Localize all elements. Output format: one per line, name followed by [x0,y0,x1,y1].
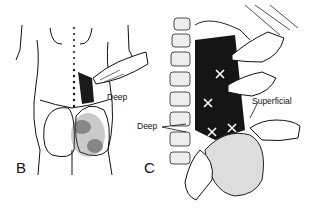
panel-b-letter: B [16,160,26,175]
panel-c-superficial-label: Superficial [252,97,292,106]
panel-b-muscle [78,72,94,104]
panel-c-nerve-lines [245,5,298,35]
panel-b-spine [73,27,75,107]
panel-c-deep-label: Deep [137,122,157,131]
anatomy-figure: Deep B Deep Superficial C [0,0,319,208]
panel-c-pelvis [205,133,264,196]
panel-c-letter: C [144,160,155,175]
panel-c-spine [170,18,190,164]
panel-b-deep-label: Deep [107,93,127,102]
